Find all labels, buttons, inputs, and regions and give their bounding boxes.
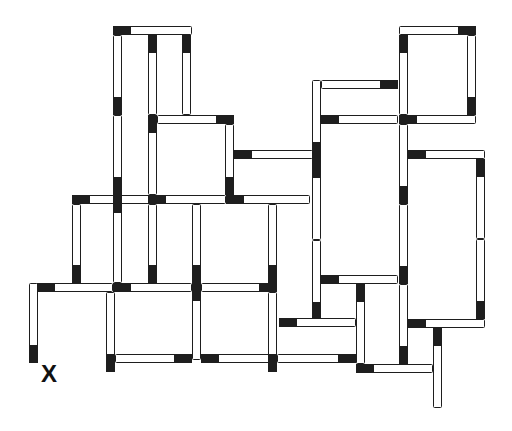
matchstick[interactable] — [113, 195, 122, 283]
match-head-icon — [113, 97, 122, 115]
matchstick[interactable] — [399, 124, 408, 204]
matchstick[interactable] — [148, 115, 157, 195]
matchstick[interactable] — [148, 204, 157, 283]
match-head-icon — [29, 345, 38, 363]
matchstick[interactable] — [148, 35, 157, 115]
matchstick[interactable] — [225, 124, 234, 195]
match-head-icon — [338, 354, 356, 363]
match-head-icon — [312, 160, 321, 178]
matchstick[interactable] — [115, 354, 192, 363]
matchstick[interactable] — [279, 318, 356, 327]
matchstick[interactable] — [268, 292, 277, 372]
match-head-icon — [225, 177, 234, 195]
match-head-icon — [467, 97, 476, 115]
matchstick[interactable] — [356, 284, 365, 364]
matchstick[interactable] — [201, 354, 277, 363]
match-head-icon — [321, 275, 339, 284]
match-head-icon — [399, 346, 408, 364]
match-head-icon — [182, 35, 191, 53]
match-head-icon — [148, 35, 157, 53]
match-head-icon — [399, 115, 417, 124]
match-head-icon — [321, 115, 339, 124]
matchstick[interactable] — [113, 26, 192, 35]
match-head-icon — [458, 26, 476, 35]
x-marker-label: X — [41, 362, 57, 386]
matchstick[interactable] — [408, 150, 485, 159]
matchstick[interactable] — [399, 115, 476, 124]
match-head-icon — [399, 186, 408, 204]
matchstick[interactable] — [399, 284, 408, 364]
matchstick[interactable] — [182, 35, 191, 115]
matchstick[interactable] — [321, 115, 398, 124]
match-head-icon — [312, 142, 321, 160]
matchstick[interactable] — [277, 354, 356, 363]
matchstick-diagram: X — [0, 0, 512, 431]
matchstick[interactable] — [226, 195, 310, 204]
match-head-icon — [192, 283, 201, 301]
match-head-icon — [106, 354, 115, 372]
match-head-icon — [259, 283, 277, 292]
match-head-icon — [174, 354, 192, 363]
match-head-icon — [399, 266, 408, 284]
matchstick[interactable] — [356, 364, 433, 373]
match-head-icon — [268, 354, 277, 372]
matchstick[interactable] — [312, 240, 321, 320]
match-head-icon — [476, 159, 485, 177]
match-head-icon — [148, 265, 157, 283]
match-head-icon — [201, 354, 219, 363]
matchstick[interactable] — [433, 328, 442, 408]
match-head-icon — [72, 195, 90, 204]
matchstick[interactable] — [408, 319, 485, 328]
match-head-icon — [148, 195, 166, 204]
match-head-icon — [408, 319, 426, 328]
match-head-icon — [113, 177, 122, 195]
matchstick[interactable] — [476, 239, 485, 319]
matchstick[interactable] — [29, 283, 38, 363]
matchstick[interactable] — [399, 204, 408, 284]
matchstick[interactable] — [399, 35, 408, 115]
match-head-icon — [148, 115, 157, 133]
matchstick[interactable] — [467, 35, 476, 115]
match-head-icon — [433, 328, 442, 346]
matchstick[interactable] — [37, 283, 113, 292]
match-head-icon — [279, 318, 297, 327]
match-head-icon — [216, 115, 234, 124]
match-head-icon — [113, 195, 122, 213]
matchstick[interactable] — [399, 26, 476, 35]
matchstick[interactable] — [321, 275, 398, 284]
match-head-icon — [399, 35, 408, 53]
match-head-icon — [192, 265, 201, 283]
matchstick[interactable] — [192, 283, 201, 360]
match-head-icon — [226, 195, 244, 204]
matchstick[interactable] — [72, 195, 150, 204]
match-head-icon — [380, 80, 398, 89]
matchstick[interactable] — [234, 150, 313, 159]
matchstick[interactable] — [106, 292, 115, 372]
matchstick[interactable] — [72, 204, 81, 283]
matchstick[interactable] — [113, 35, 122, 115]
matchstick[interactable] — [268, 204, 277, 283]
matchstick[interactable] — [192, 204, 201, 283]
matchstick[interactable] — [476, 159, 485, 239]
match-head-icon — [476, 301, 485, 319]
matchstick[interactable] — [312, 80, 321, 160]
match-head-icon — [113, 26, 131, 35]
match-head-icon — [356, 284, 365, 302]
match-head-icon — [37, 283, 55, 292]
match-head-icon — [72, 265, 81, 283]
matchstick[interactable] — [201, 283, 277, 292]
match-head-icon — [234, 150, 252, 159]
match-head-icon — [408, 150, 426, 159]
match-head-icon — [268, 265, 277, 283]
matchstick[interactable] — [113, 115, 122, 195]
matchstick[interactable] — [312, 160, 321, 240]
match-head-icon — [356, 364, 374, 373]
matchstick[interactable] — [157, 115, 234, 124]
matchstick[interactable] — [113, 283, 192, 292]
match-head-icon — [113, 283, 131, 292]
matchstick[interactable] — [148, 195, 226, 204]
matchstick[interactable] — [321, 80, 398, 89]
